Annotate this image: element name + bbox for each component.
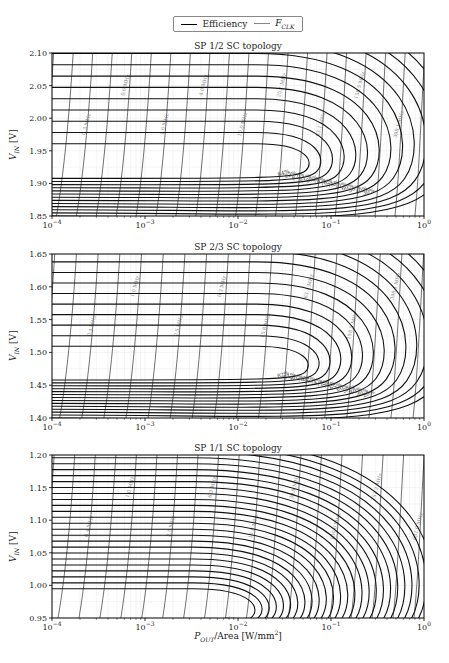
y-tick-label: 1.20 <box>29 451 47 460</box>
y-tick-label: 1.60 <box>29 283 47 292</box>
svg-text:65%: 65% <box>297 629 311 639</box>
svg-text:2.5 MHz: 2.5 MHz <box>165 515 176 538</box>
svg-text:0.4 MHz: 0.4 MHz <box>83 515 94 538</box>
contour-plots: 0.1 MHz0.3 MHz0.6 MHz1.6 MHz4.0 MHz10.0 … <box>0 0 449 663</box>
svg-text:82%: 82% <box>267 623 281 633</box>
svg-text:20%: 20% <box>323 634 337 644</box>
y-tick-label: 2.05 <box>29 82 47 91</box>
y-tick-label: 1.15 <box>29 484 47 493</box>
y-tick-label: 1.85 <box>29 212 47 221</box>
y-tick-label: 1.90 <box>29 179 47 188</box>
y-tick-label: 2.00 <box>29 114 47 123</box>
y-tick-label: 1.50 <box>29 348 47 357</box>
y-tick-label: 1.05 <box>29 549 47 558</box>
svg-text:76%: 76% <box>280 626 294 636</box>
x-tick-label: 10−2 <box>228 620 247 632</box>
x-tick-label: 10−2 <box>228 218 247 230</box>
svg-text:63.1 MHz: 63.1 MHz <box>314 111 326 137</box>
x-tick-label: 10−1 <box>321 420 340 432</box>
svg-text:78%: 78% <box>275 625 289 635</box>
panel-3-plot: 0.1 MHz0.4 MHz1.0 MHz2.5 MHz6.3 MHz15.8 … <box>29 440 433 649</box>
x-tick-label: 100 <box>417 218 431 230</box>
y-tick-label: 1.45 <box>29 381 47 390</box>
svg-text:40%: 40% <box>310 631 324 641</box>
x-tick-label: 10−3 <box>135 420 154 432</box>
x-tick-label: 100 <box>417 620 431 632</box>
y-tick-label: 0.95 <box>29 614 47 623</box>
y-tick-label: 1.65 <box>29 250 47 259</box>
svg-text:30%: 30% <box>319 633 333 643</box>
svg-text:72%: 72% <box>288 627 302 637</box>
y-tick-label: 1.95 <box>29 147 47 156</box>
svg-text:35%: 35% <box>314 632 328 642</box>
x-tick-label: 10−2 <box>228 420 247 432</box>
x-tick-label: 100 <box>417 420 431 432</box>
x-tick-label: 10−3 <box>135 218 154 230</box>
y-tick-label: 2.10 <box>29 49 47 58</box>
panel-2-plot: 0.1 MHz0.4 MHz1.0 MHz2.5 MHz6.3 MHz15.8 … <box>29 209 449 432</box>
svg-text:10%: 10% <box>327 634 341 644</box>
x-tick-label: 10−3 <box>135 620 154 632</box>
svg-text:70%: 70% <box>293 628 307 638</box>
y-tick-label: 1.10 <box>29 516 47 525</box>
svg-text:60%: 60% <box>301 630 315 640</box>
y-tick-label: 1.55 <box>29 316 47 325</box>
svg-text:87%: 87% <box>249 620 263 630</box>
svg-text:86%: 86% <box>254 621 268 631</box>
x-tick-label: 10−1 <box>321 620 340 632</box>
y-tick-label: 1.00 <box>29 581 47 590</box>
svg-text:80%: 80% <box>271 624 285 634</box>
svg-text:85%: 85% <box>258 622 272 632</box>
x-tick-label: 10−1 <box>321 218 340 230</box>
svg-text:74%: 74% <box>284 626 298 636</box>
svg-text:398.1 MHz: 398.1 MHz <box>392 110 405 139</box>
y-tick-label: 1.40 <box>29 414 47 423</box>
svg-text:84%: 84% <box>262 623 276 633</box>
panel-1-plot: 0.1 MHz0.3 MHz0.6 MHz1.6 MHz4.0 MHz10.0 … <box>29 8 449 230</box>
svg-text:50%: 50% <box>306 630 320 640</box>
